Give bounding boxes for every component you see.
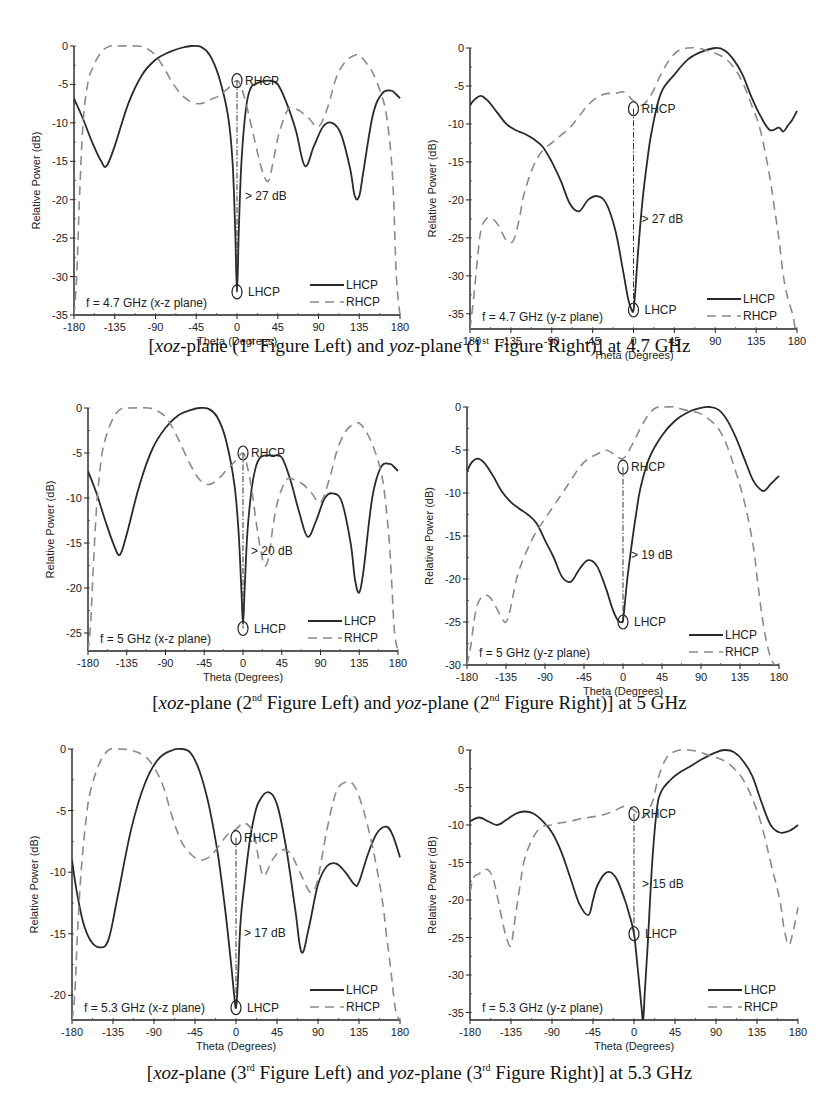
x-tick-label: -135 (116, 657, 138, 669)
x-tick-label: 135 (350, 321, 368, 333)
caption-part: Figure Left) and (255, 335, 389, 356)
x-tick-label: -135 (102, 1026, 124, 1038)
y-axis-label: Relative Power (dB) (44, 481, 56, 579)
chart-yz-5ghz: 0-5-10-15-20-25-30-180-135-90-4504590135… (410, 360, 839, 680)
x-tick-label: -135 (104, 321, 126, 333)
chart-svg: 0-5-10-15-20-180-135-90-4504590135180The… (0, 700, 420, 1040)
legend-lhcp: LHCP (725, 628, 757, 642)
y-tick-label: 0 (76, 402, 82, 414)
x-tick-label: -45 (187, 1026, 203, 1038)
lhcp-marker-label: LHCP (645, 927, 677, 941)
rhcp-marker-label: RHCP (244, 831, 278, 845)
y-tick-label: -10 (50, 866, 66, 878)
x-tick-label: -180 (456, 671, 478, 683)
y-tick-label: -15 (66, 537, 82, 549)
y-tick-label: -10 (448, 819, 464, 831)
x-tick-label: 90 (710, 1026, 722, 1038)
legend-rhcp: RHCP (725, 645, 759, 659)
chart-xz-4_7ghz: 0-5-10-15-20-25-30-35-180-135-90-4504590… (0, 0, 420, 330)
separation-annotation: > 19 dB (631, 548, 673, 562)
y-tick-label: -30 (52, 271, 68, 283)
caption-part: -plane (3 (178, 1062, 246, 1083)
x-tick-label: -45 (188, 321, 204, 333)
y-tick-label: 0 (62, 40, 68, 52)
x-tick-label: -45 (196, 657, 212, 669)
x-tick-label: -180 (61, 1026, 83, 1038)
x-tick-label: 90 (695, 671, 707, 683)
y-tick-label: -10 (66, 492, 82, 504)
y-axis-label: Relative Power (dB) (426, 140, 438, 238)
x-tick-label: 45 (276, 657, 288, 669)
y-tick-label: -20 (448, 194, 464, 206)
separation-annotation: > 27 dB (642, 212, 684, 226)
x-tick-label: 135 (731, 671, 749, 683)
y-tick-label: -25 (448, 232, 464, 244)
x-tick-label: -90 (146, 1026, 162, 1038)
y-axis-label: Relative Power (dB) (30, 132, 42, 230)
legend: LHCPRHCP (708, 983, 778, 1014)
y-tick-label: -10 (448, 118, 464, 130)
x-tick-label: 135 (748, 1026, 766, 1038)
y-tick-label: -10 (445, 487, 461, 499)
y-tick-label: -30 (445, 659, 461, 671)
x-tick-label: -90 (158, 657, 174, 669)
legend: LHCPRHCP (310, 278, 380, 309)
y-tick-label: -5 (56, 805, 66, 817)
chart-svg: 0-5-10-15-20-25-30-35-180-135-90-4504590… (410, 700, 839, 1040)
legend-rhcp: RHCP (743, 309, 777, 323)
caption-part: st (248, 335, 255, 346)
legend: LHCPRHCP (310, 983, 380, 1014)
x-tick-label: 135 (350, 1026, 368, 1038)
x-tick-label: 0 (234, 321, 240, 333)
x-tick-label: -135 (500, 1026, 522, 1038)
legend-lhcp: LHCP (346, 278, 378, 292)
y-tick-label: -35 (448, 308, 464, 320)
y-tick-label: -25 (448, 932, 464, 944)
caption-part: rd (482, 1062, 490, 1073)
chart-svg: 0-5-10-15-20-25-30-180-135-90-4504590135… (410, 360, 839, 680)
series-rhcp (470, 750, 798, 947)
lhcp-marker-label: LHCP (247, 1001, 279, 1015)
chart-frequency-label: f = 5 GHz (x-z plane) (100, 632, 211, 646)
legend: LHCPRHCP (689, 628, 759, 659)
x-tick-label: 45 (669, 1026, 681, 1038)
caption-part: -plane (3 (414, 1062, 482, 1083)
y-tick-label: -5 (454, 782, 464, 794)
caption-part: -plane (1 (180, 335, 248, 356)
separation-annotation: > 27 dB (245, 189, 287, 203)
x-axis-label: Theta (Degrees) (196, 1040, 276, 1052)
y-axis-label: Relative Power (dB) (28, 836, 40, 934)
x-tick-label: -180 (63, 321, 85, 333)
chart-svg: 0-5-10-15-20-25-30-35-180-135-90-4504590… (0, 0, 420, 330)
legend-rhcp: RHCP (344, 631, 378, 645)
y-tick-label: -20 (448, 894, 464, 906)
y-axis-label: Relative Power (dB) (426, 836, 438, 934)
lhcp-marker-label: LHCP (254, 622, 286, 636)
x-tick-label: -90 (537, 671, 553, 683)
y-tick-label: -20 (66, 582, 82, 594)
y-tick-label: -25 (445, 616, 461, 628)
x-tick-label: 180 (789, 1026, 807, 1038)
x-tick-label: 0 (631, 1026, 637, 1038)
x-tick-label: 180 (391, 1026, 409, 1038)
chart-frequency-label: f = 5 GHz (y-z plane) (479, 646, 590, 660)
caption-part: rd (247, 1062, 255, 1073)
x-tick-label: 90 (312, 321, 324, 333)
y-tick-label: -35 (448, 1007, 464, 1019)
y-tick-label: 0 (455, 401, 461, 413)
x-tick-label: 180 (389, 657, 407, 669)
lhcp-marker-label: LHCP (645, 303, 677, 317)
caption-part: -plane (1 (414, 335, 482, 356)
legend-rhcp: RHCP (744, 1000, 778, 1014)
y-tick-label: 0 (458, 744, 464, 756)
y-tick-label: -25 (52, 232, 68, 244)
x-tick-label: 45 (656, 671, 668, 683)
legend: LHCPRHCP (707, 292, 777, 323)
lhcp-marker-label: LHCP (248, 285, 280, 299)
x-tick-label: -135 (495, 671, 517, 683)
caption-part: Figure Left) and (255, 1062, 389, 1083)
rhcp-marker-label: RHCP (245, 74, 279, 88)
chart-xz-5_3ghz: 0-5-10-15-20-180-135-90-4504590135180The… (0, 700, 420, 1040)
chart-xz-5ghz: 0-5-10-15-20-25-180-135-90-4504590135180… (0, 360, 420, 660)
caption-part: yoz (389, 1062, 414, 1083)
